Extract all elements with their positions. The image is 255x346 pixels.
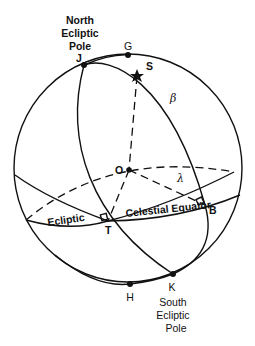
point-o bbox=[126, 167, 132, 173]
north-pole-label-2: Ecliptic bbox=[61, 27, 99, 39]
point-h bbox=[127, 281, 133, 287]
north-pole-label-1: North bbox=[66, 14, 94, 26]
lower-arc-h-k bbox=[55, 255, 173, 284]
south-pole-label-1: South bbox=[159, 296, 187, 308]
label-j: J bbox=[76, 52, 82, 64]
label-beta: β bbox=[169, 92, 176, 105]
point-k bbox=[170, 271, 176, 277]
south-pole-label-3: Pole bbox=[165, 322, 186, 334]
celestial-sphere-diagram: North Ecliptic Pole J G S β O B λ T Ecli… bbox=[0, 0, 255, 346]
label-s: S bbox=[146, 60, 153, 72]
south-pole-label-2: Ecliptic bbox=[156, 309, 189, 321]
label-h: H bbox=[126, 291, 134, 303]
north-pole-label-3: Pole bbox=[69, 40, 91, 52]
latitude-circle-j-s-b bbox=[84, 63, 205, 205]
point-g bbox=[125, 52, 131, 58]
colure-j-t-k bbox=[78, 65, 173, 274]
line-o-s bbox=[129, 76, 137, 170]
right-angle-t bbox=[100, 213, 107, 220]
label-k: K bbox=[168, 281, 175, 293]
latitude-circle-b-k bbox=[173, 205, 208, 274]
label-g: G bbox=[124, 40, 132, 52]
label-t: T bbox=[105, 224, 112, 236]
label-lambda: λ bbox=[176, 172, 184, 185]
label-o: O bbox=[115, 164, 123, 176]
